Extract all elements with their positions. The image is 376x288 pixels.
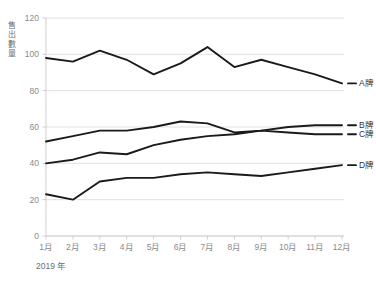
y-tick-label: 100	[25, 49, 39, 59]
series-lines	[46, 47, 342, 200]
legend-label-4[interactable]: D牌	[359, 160, 374, 170]
y-axis-title: 售出數量	[8, 20, 16, 59]
x-tick-label: 7月	[201, 242, 215, 252]
y-axis-title-char: 出	[8, 29, 16, 39]
x-tick-label: 1月	[39, 242, 53, 252]
x-axis	[46, 18, 344, 240]
legend: A牌B牌C牌D牌	[348, 78, 374, 170]
x-tick-label: 9月	[254, 242, 268, 252]
x-tick-label: 3月	[93, 242, 107, 252]
x-tick-labels: 1月2月3月4月5月6月7月8月9月10月11月12月	[39, 242, 351, 252]
legend-label-1[interactable]: A牌	[359, 78, 374, 88]
x-tick-label: 5月	[147, 242, 161, 252]
y-tick-label: 80	[30, 86, 40, 96]
x-tick-label: 8月	[227, 242, 241, 252]
x-tick-label: 4月	[120, 242, 134, 252]
series-line-1	[46, 47, 342, 83]
y-axis-title-char: 量	[8, 49, 16, 58]
x-tick-label: 11月	[306, 242, 324, 252]
y-axis-title-char: 數	[8, 39, 16, 49]
legend-label-3[interactable]: C牌	[359, 129, 374, 139]
y-tick-label: 20	[30, 195, 40, 205]
x-axis-title-label: 2019 年	[36, 261, 66, 271]
series-line-4	[46, 165, 342, 200]
x-axis-title: 2019 年	[36, 261, 66, 271]
x-tick-label: 12月	[333, 242, 351, 252]
y-tick-labels: 020406080100120	[25, 13, 39, 241]
x-tick-label: 2月	[66, 242, 80, 252]
y-tick-label: 120	[25, 13, 39, 23]
chart-canvas: 售出數量 020406080100120 1月2月3月4月5月6月7月8月9月1…	[0, 0, 376, 288]
series-line-3	[46, 131, 342, 164]
x-tick-label: 10月	[279, 242, 297, 252]
y-axis-title-char: 售	[8, 20, 16, 30]
y-tick-label: 60	[30, 122, 40, 132]
y-tick-label: 0	[34, 231, 39, 241]
y-tick-label: 40	[30, 158, 40, 168]
x-tick-label: 6月	[174, 242, 188, 252]
line-chart: 售出數量 020406080100120 1月2月3月4月5月6月7月8月9月1…	[0, 0, 376, 288]
